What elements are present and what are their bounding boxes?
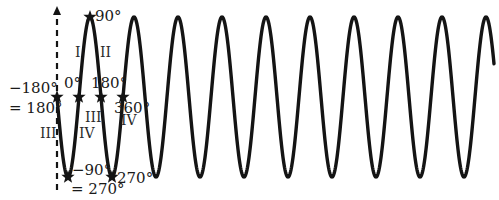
- quadrant-IV-left: IV: [79, 126, 95, 140]
- label-neg90: −90°: [72, 163, 111, 178]
- quadrant-III-left: III: [40, 126, 57, 140]
- quadrant-II: II: [100, 45, 111, 59]
- quadrant-III-right: III: [85, 110, 102, 124]
- label-90: 90°: [95, 9, 122, 24]
- label-270: 270°: [117, 171, 153, 186]
- label-0: 0°: [64, 76, 81, 91]
- label-neg180-equivalent: = 180°: [9, 101, 62, 116]
- label-neg180: −180°: [9, 81, 58, 96]
- sine-wave-diagram: 90° 0° −180° = 180° 180° 360° −90° = 270…: [0, 0, 499, 200]
- label-180: 180°: [91, 76, 127, 91]
- quadrant-I: I: [75, 45, 81, 59]
- quadrant-IV-right: IV: [121, 113, 137, 127]
- axis-arrow-icon: [53, 6, 61, 15]
